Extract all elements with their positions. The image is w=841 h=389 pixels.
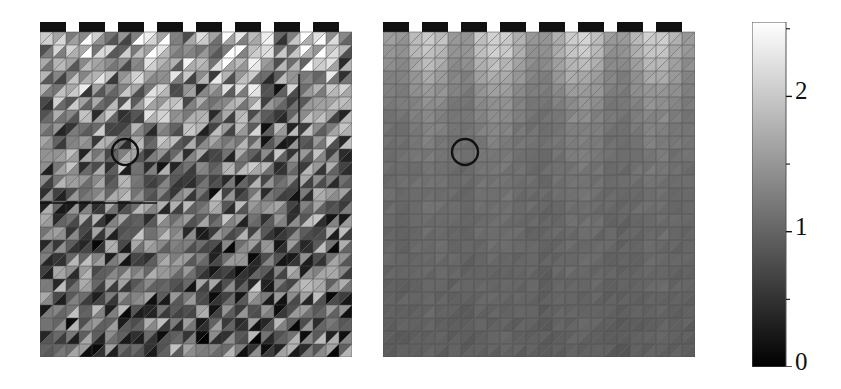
crenellation-block [118,22,144,32]
crenellation-row [383,22,682,32]
crenellation-block [422,22,448,32]
crenellation-block [79,22,105,32]
crenellation-block [40,22,66,32]
crenellation-block [274,22,300,32]
colorbar-gradient [752,22,786,367]
crenellation-row [40,22,339,32]
crenellation-block [313,22,339,32]
crenellation-block [196,22,222,32]
figure-canvas: 210 [0,0,841,389]
colorbar [752,22,796,367]
colorbar-tick-label: 2 [795,78,808,103]
crenellation-block [461,22,487,32]
left-panel [40,22,352,357]
crenellation-block [617,22,643,32]
crenellation-block [235,22,261,32]
colorbar-tick-label: 1 [795,214,808,239]
crenellation-block [539,22,565,32]
right-panel [383,22,695,357]
crenellation-block [383,22,409,32]
crenellation-block [656,22,682,32]
crenellation-block [500,22,526,32]
crenellation-block [578,22,604,32]
crenellation-block [157,22,183,32]
colorbar-tick-label: 0 [795,349,808,374]
